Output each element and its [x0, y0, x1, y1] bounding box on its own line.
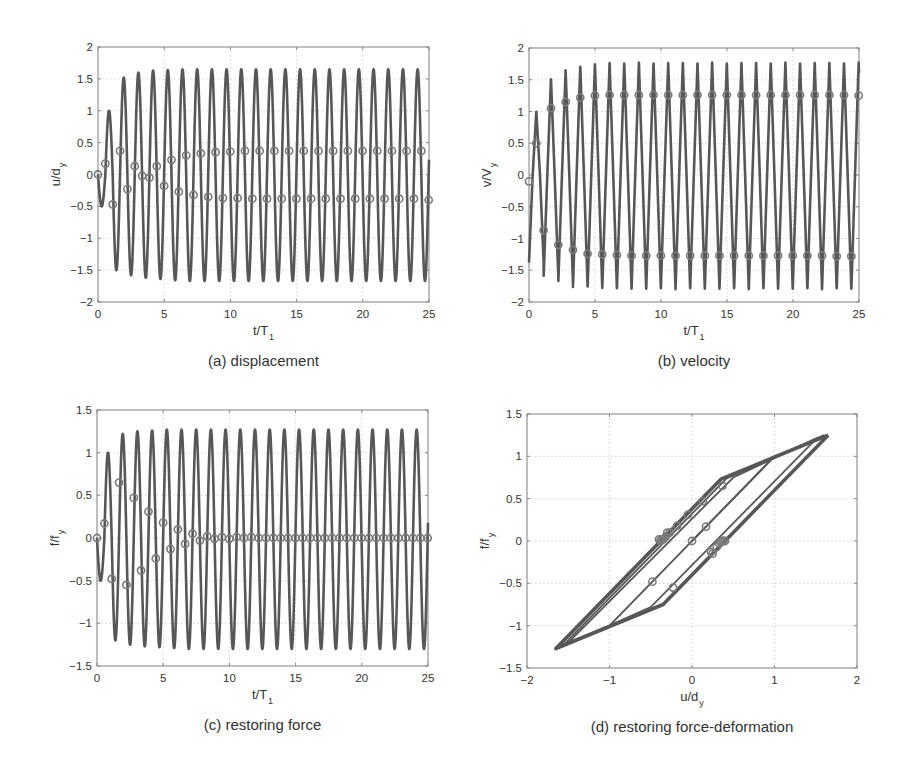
x-tick-label: −1 [603, 674, 616, 686]
x-tick-label: 0 [689, 674, 695, 686]
y-tick-label: 0 [516, 535, 522, 547]
plot-canvas-force-deformation: −2−1012−1.5−1−0.500.511.5u/dyf/fy [0, 0, 901, 783]
caption-force-deformation: (d) restoring force-deformation [591, 718, 794, 735]
y-tick-label: 1 [516, 450, 522, 462]
x-tick-label: −2 [520, 674, 533, 686]
y-tick-label: 0.5 [506, 493, 522, 505]
transient-loop [568, 438, 817, 643]
y-tick-label: −1 [509, 620, 522, 632]
x-tick-label: 1 [771, 674, 777, 686]
y-tick-label: −0.5 [499, 577, 522, 589]
x-tick-label: 2 [854, 674, 860, 686]
x-axis-label: u/dy [680, 689, 704, 708]
y-axis-label: f/fy [477, 532, 496, 549]
markers [649, 482, 729, 591]
y-tick-label: −1.5 [499, 662, 522, 674]
y-tick-label: 1.5 [506, 408, 522, 420]
